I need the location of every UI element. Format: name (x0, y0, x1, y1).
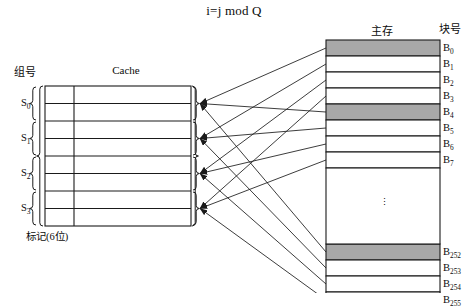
memory-block-label-1: B1 (443, 59, 454, 71)
memory-block-label-5: B5 (443, 123, 454, 135)
cache-set-braces-right (192, 86, 199, 226)
cache-set-label-1: S1 (21, 132, 31, 146)
memory-block-label-4: B4 (443, 107, 454, 119)
cache-set-label-0: S0 (21, 97, 31, 111)
memory-block-label-254: B254 (443, 279, 461, 291)
memory-block-label-255: B255 (443, 295, 461, 307)
memory-block-label-3: B3 (443, 91, 454, 103)
vertical-ellipsis: ⋮ (380, 197, 389, 207)
main-memory-blocks-graphic (326, 40, 440, 293)
memory-block-label-253: B253 (443, 263, 461, 275)
cache-table-graphic (45, 86, 191, 226)
cache-set-label-3: S3 (21, 202, 31, 216)
memory-block-label-252: B252 (443, 247, 461, 259)
memory-block-label-6: B6 (443, 139, 454, 151)
memory-block-label-0: B0 (443, 43, 454, 55)
cache-set-braces-left (30, 86, 43, 226)
cache-set-label-2: S2 (21, 167, 31, 181)
mapping-connector-lines (200, 48, 326, 293)
memory-block-label-2: B2 (443, 75, 454, 87)
memory-block-label-7: B7 (443, 155, 454, 167)
